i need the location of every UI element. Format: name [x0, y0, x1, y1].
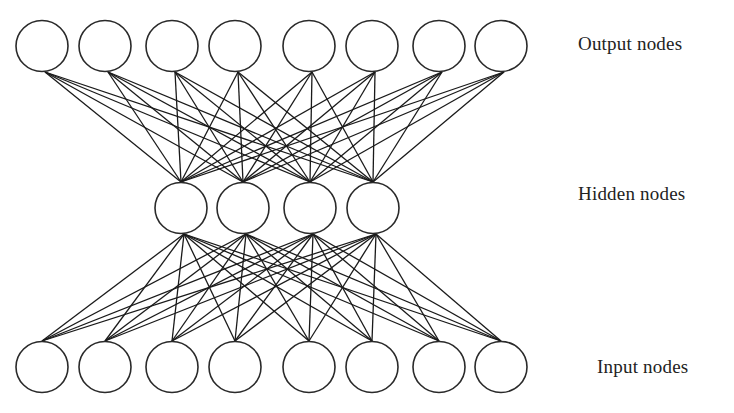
- hidden-node-2: [217, 183, 269, 234]
- output-node-8: [475, 21, 527, 72]
- output-node-4: [209, 21, 261, 72]
- hidden-node-3: [284, 183, 336, 234]
- input-node-5: [283, 342, 335, 393]
- connection-edge: [376, 234, 439, 341]
- connection-edge: [310, 72, 442, 182]
- hidden-node-4: [347, 183, 399, 234]
- output-node-2: [79, 21, 131, 72]
- connection-edge: [172, 234, 313, 341]
- nodes-group: [16, 21, 527, 393]
- input-node-1: [16, 342, 68, 393]
- output-nodes-label: Output nodes: [578, 33, 682, 55]
- connection-edge: [42, 234, 184, 341]
- connection-edge: [105, 234, 376, 341]
- connection-edge: [181, 72, 312, 182]
- connection-edge: [373, 72, 504, 182]
- output-node-5: [283, 21, 335, 72]
- connection-edge: [243, 72, 375, 182]
- connection-edge: [310, 72, 504, 182]
- connection-edge: [42, 234, 313, 341]
- input-node-8: [475, 342, 527, 393]
- output-node-1: [16, 21, 68, 72]
- connection-edge: [105, 234, 246, 341]
- hidden-node-1: [155, 183, 207, 234]
- output-node-7: [413, 21, 465, 72]
- connection-edge: [376, 234, 501, 341]
- input-nodes-label: Input nodes: [597, 356, 688, 378]
- input-node-3: [146, 342, 198, 393]
- hidden-nodes-label: Hidden nodes: [578, 183, 685, 205]
- connection-edge: [108, 72, 181, 182]
- output-node-6: [346, 21, 398, 72]
- input-node-2: [79, 342, 131, 393]
- output-node-3: [146, 21, 198, 72]
- connection-edge: [238, 72, 373, 182]
- input-node-6: [346, 342, 398, 393]
- neural-network-diagram: [0, 0, 734, 413]
- connection-edge: [45, 72, 181, 182]
- edges-group: [42, 72, 504, 341]
- input-node-4: [209, 342, 261, 393]
- connection-edge: [42, 234, 376, 341]
- input-node-7: [413, 342, 465, 393]
